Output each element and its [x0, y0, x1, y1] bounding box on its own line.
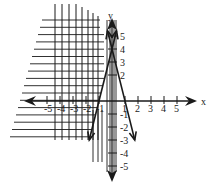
x-tick-label: 5 [174, 103, 179, 114]
y-tick-label: -2 [120, 122, 128, 133]
x-tick-label: -5 [44, 103, 52, 114]
y-tick-label: 5 [120, 31, 125, 42]
y-tick-label: 4 [120, 44, 125, 55]
x-axis-label: x [201, 96, 206, 107]
y-tick-label: -4 [120, 148, 128, 159]
x-tick-label: -3 [70, 103, 78, 114]
x-tick-label: -2 [83, 103, 91, 114]
x-tick-label: 2 [135, 103, 140, 114]
y-tick-label: -1 [120, 109, 128, 120]
x-tick-label: -4 [57, 103, 65, 114]
chart-svg: -5-4-3-2-1123455432-1-2-3-4-5xy [0, 0, 207, 182]
shading-hatch [10, 4, 116, 172]
y-tick-label: -5 [120, 161, 128, 172]
y-tick-label: -3 [120, 135, 128, 146]
x-tick-label: 3 [148, 103, 153, 114]
inequality-graph: -5-4-3-2-1123455432-1-2-3-4-5xy [0, 0, 207, 182]
x-tick-label: 4 [161, 103, 166, 114]
y-tick-label: 3 [120, 57, 125, 68]
y-tick-label: 2 [120, 70, 125, 81]
x-tick-label: -1 [96, 103, 104, 114]
y-axis-label: y [108, 10, 113, 21]
